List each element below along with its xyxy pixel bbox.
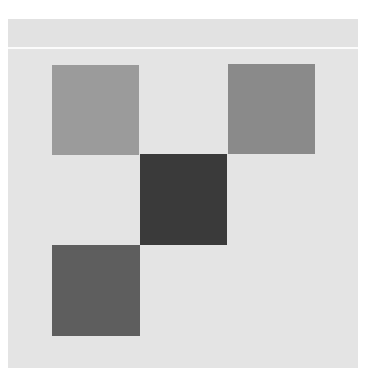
tile-bottom-left[interactable]	[52, 245, 140, 336]
game-board	[8, 19, 358, 368]
tile-top-left[interactable]	[52, 65, 139, 155]
game-stage	[0, 0, 381, 368]
board-header	[8, 19, 358, 47]
header-divider	[8, 47, 358, 49]
tile-top-right[interactable]	[228, 64, 315, 154]
tile-center[interactable]	[140, 154, 227, 245]
